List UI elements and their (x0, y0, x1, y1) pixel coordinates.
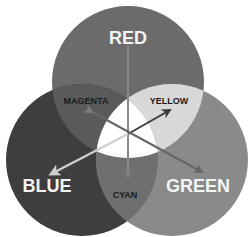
label-magenta: MAGENTA (64, 96, 109, 106)
label-yellow: YELLOW (150, 96, 189, 106)
rgb-venn-diagram: RED BLUE GREEN MAGENTA YELLOW CYAN (0, 0, 252, 237)
label-green: GREEN (166, 176, 230, 196)
label-blue: BLUE (23, 176, 72, 196)
label-cyan: CYAN (113, 190, 138, 200)
label-red: RED (109, 28, 147, 48)
